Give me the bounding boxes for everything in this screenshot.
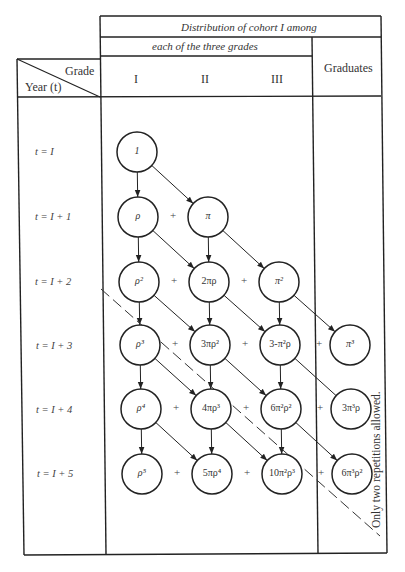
node-label: 4πρ³	[191, 402, 231, 414]
plus-sign: +	[171, 401, 181, 413]
node-label: 3-π²ρ	[260, 338, 300, 350]
node-label: 2πρ	[189, 275, 229, 287]
repetition-note: Only two repetitions allowed.	[370, 391, 382, 528]
column-header-grade-1: I	[134, 72, 138, 87]
arrow-n31-to-n42	[225, 358, 266, 395]
column-header-grade-3: III	[271, 72, 283, 87]
node-label: ρ⁴	[121, 402, 161, 414]
arrow-n30-to-n41	[155, 358, 196, 395]
node-label: 3πρ²	[190, 338, 230, 350]
plus-sign: +	[314, 337, 324, 349]
plus-sign: +	[172, 466, 182, 478]
arrow-n41-to-n52	[226, 423, 267, 461]
node-label: ρ	[118, 210, 158, 222]
node-label: 1	[117, 145, 157, 157]
node-label: π	[188, 210, 228, 222]
header-title: Distribution of cohort I among	[181, 21, 317, 33]
header-grades-span: each of the three grades	[152, 40, 258, 52]
row-label-t4: t = I + 4	[36, 404, 72, 415]
node-label: ρ²	[119, 275, 159, 287]
plus-sign: +	[241, 401, 251, 413]
row-label-t1: t = I + 1	[35, 211, 71, 222]
cohort-distribution-diagram: Distribution of cohort I among each of t…	[0, 0, 405, 572]
plus-sign: +	[316, 466, 326, 478]
node-label: 6π³ρ²	[332, 467, 372, 479]
arrow-n40-to-n51	[156, 423, 197, 461]
row-label-t3: t = I + 3	[36, 340, 72, 351]
plus-sign: +	[239, 274, 249, 286]
node-label: 3π³ρ	[331, 402, 371, 414]
plus-sign: +	[315, 401, 325, 413]
corner-year-label: Year (t)	[25, 80, 61, 95]
plus-sign: +	[170, 337, 180, 349]
node-label: 6π²ρ²	[261, 402, 301, 414]
row-label-t2: t = I + 2	[35, 276, 71, 287]
arrow-n20-to-n31	[154, 295, 195, 331]
node-label: π³	[330, 338, 370, 350]
plus-sign: +	[169, 274, 179, 286]
plus-sign: +	[168, 209, 178, 221]
row-label-t0: t = I	[35, 146, 54, 157]
row-label-t5: t = I + 5	[37, 468, 73, 479]
plus-sign: +	[240, 337, 250, 349]
node-label: π²	[259, 275, 299, 287]
arrow-n21-to-n32	[224, 295, 265, 331]
corner-grade-label: Grade	[65, 64, 94, 79]
arrow-n00-to-n11	[152, 166, 193, 204]
node-label: ρ³	[120, 338, 160, 350]
plus-sign: +	[242, 466, 252, 478]
node-label: 5πρ⁴	[192, 467, 232, 479]
column-header-grade-2: II	[201, 72, 209, 87]
arrow-n11-to-n22	[223, 231, 264, 269]
node-label: 10π²ρ³	[262, 467, 302, 479]
column-header-graduates: Graduates	[324, 61, 373, 76]
arrow-n10-to-n21	[153, 231, 194, 269]
node-label: ρ⁵	[122, 467, 162, 479]
